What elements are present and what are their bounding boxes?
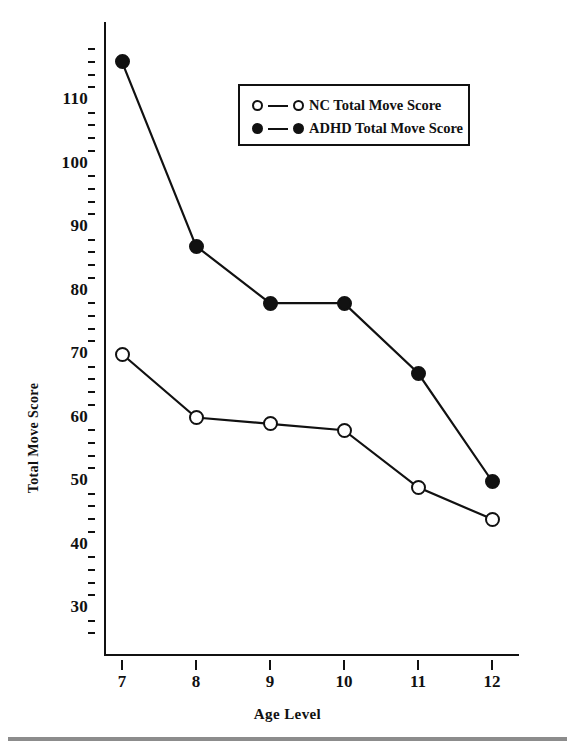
y-minor-tick [88, 112, 95, 114]
y-minor-tick [88, 582, 95, 584]
y-minor-tick [88, 61, 95, 63]
y-minor-tick [88, 518, 95, 520]
y-tick-label: 110 [44, 89, 88, 109]
data-point [263, 416, 278, 431]
legend-item-adhd: ADHD Total Move Score [252, 117, 468, 140]
y-minor-tick [88, 137, 95, 139]
data-point [189, 239, 204, 254]
data-point [263, 296, 278, 311]
y-minor-tick [88, 74, 95, 76]
y-axis-line [104, 22, 106, 656]
y-minor-tick [88, 302, 95, 304]
data-point [411, 366, 426, 381]
legend-label-nc: NC Total Move Score [309, 97, 441, 114]
chart-figure: 11010090807060504030 789101112 Total Mov… [0, 0, 575, 752]
x-tick [269, 660, 271, 670]
legend-item-nc: NC Total Move Score [252, 94, 468, 117]
x-tick-label: 8 [176, 672, 216, 692]
y-minor-tick [88, 86, 95, 88]
data-point [485, 512, 500, 527]
y-minor-tick [88, 493, 95, 495]
y-minor-tick [88, 505, 95, 507]
y-minor-tick [88, 239, 95, 241]
x-axis-line [104, 654, 519, 656]
y-minor-tick [88, 315, 95, 317]
x-tick-label: 10 [324, 672, 364, 692]
x-tick-label: 12 [472, 672, 512, 692]
y-minor-tick [88, 556, 95, 558]
x-axis-title: Age Level [0, 706, 575, 723]
legend-line-icon [268, 128, 288, 130]
y-minor-tick [88, 251, 95, 253]
page-rule [8, 737, 567, 741]
y-tick-label: 80 [44, 280, 88, 300]
x-tick-label: 7 [102, 672, 142, 692]
y-minor-tick [88, 366, 95, 368]
y-minor-tick [88, 391, 95, 393]
x-tick [343, 660, 345, 670]
y-tick-label: 70 [44, 343, 88, 363]
x-tick-label: 9 [250, 672, 290, 692]
y-minor-tick [88, 455, 95, 457]
filled-circle-icon [252, 123, 263, 134]
x-tick [417, 660, 419, 670]
y-minor-tick [88, 124, 95, 126]
y-minor-tick [88, 213, 95, 215]
x-tick [195, 660, 197, 670]
y-minor-tick [88, 150, 95, 152]
x-tick [491, 660, 493, 670]
data-point [337, 423, 352, 438]
y-tick-label: 50 [44, 470, 88, 490]
y-minor-tick [88, 569, 95, 571]
y-minor-tick [88, 378, 95, 380]
y-minor-tick [88, 264, 95, 266]
data-point [337, 296, 352, 311]
data-point [115, 54, 130, 69]
y-minor-tick [88, 48, 95, 50]
y-tick-label: 100 [44, 153, 88, 173]
data-point [189, 410, 204, 425]
y-tick-label: 40 [44, 534, 88, 554]
y-minor-tick [88, 201, 95, 203]
y-tick-label: 90 [44, 216, 88, 236]
y-minor-tick [88, 340, 95, 342]
data-point [485, 474, 500, 489]
y-minor-tick [88, 175, 95, 177]
x-tick [121, 660, 123, 670]
y-minor-tick [88, 632, 95, 634]
y-axis-title: Total Move Score [26, 358, 42, 518]
y-minor-tick [88, 442, 95, 444]
y-tick-label: 60 [44, 407, 88, 427]
legend-label-adhd: ADHD Total Move Score [309, 120, 463, 137]
series-line [122, 354, 492, 519]
y-minor-tick [88, 594, 95, 596]
y-minor-tick [88, 277, 95, 279]
filled-circle-icon [293, 123, 304, 134]
y-minor-tick [88, 188, 95, 190]
data-point [115, 347, 130, 362]
x-tick-label: 11 [398, 672, 438, 692]
legend-line-icon [268, 105, 288, 107]
y-minor-tick [88, 328, 95, 330]
y-minor-tick [88, 531, 95, 533]
y-minor-tick [88, 467, 95, 469]
y-minor-tick [88, 429, 95, 431]
y-tick-label: 30 [44, 597, 88, 617]
open-circle-icon [252, 100, 263, 111]
data-point [411, 480, 426, 495]
chart-legend: NC Total Move Score ADHD Total Move Scor… [238, 84, 470, 146]
open-circle-icon [293, 100, 304, 111]
y-minor-tick [88, 620, 95, 622]
y-minor-tick [88, 404, 95, 406]
